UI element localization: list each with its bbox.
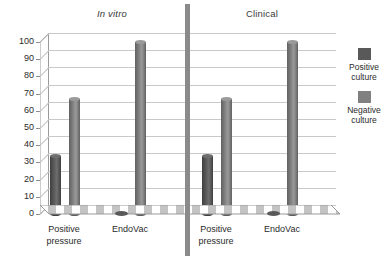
y-axis-tick-label: 0 bbox=[2, 209, 34, 218]
y-axis-tick-label: 50 bbox=[2, 123, 34, 132]
chart-floor bbox=[40, 205, 340, 223]
legend-swatch-positive-culture bbox=[358, 48, 371, 60]
y-axis-tick-label: 10 bbox=[2, 192, 34, 201]
bar-zero-marker bbox=[267, 211, 280, 216]
category-label: EndoVac bbox=[247, 224, 317, 236]
legend-label-negative-culture: Negative culture bbox=[338, 105, 390, 125]
floor-shape bbox=[40, 205, 340, 223]
bar-cap-ellipse bbox=[287, 40, 298, 44]
bar-column bbox=[221, 99, 232, 214]
y-axis-tick-label: 80 bbox=[2, 71, 34, 80]
legend-item-positive-culture: Positive culture bbox=[338, 48, 390, 82]
y-axis-tick-label: 30 bbox=[2, 157, 34, 166]
bar-column bbox=[69, 99, 80, 214]
bar-column bbox=[287, 42, 298, 214]
bar-body bbox=[221, 99, 232, 214]
y-axis-tick-label: 100 bbox=[2, 37, 34, 46]
bar-zero-marker bbox=[115, 211, 128, 216]
bar-cap-ellipse bbox=[135, 40, 146, 44]
bar-cap-ellipse bbox=[69, 97, 80, 101]
legend-swatch-negative-culture bbox=[358, 91, 371, 103]
legend-item-negative-culture: Negative culture bbox=[338, 91, 390, 125]
bar-cap-ellipse bbox=[202, 154, 213, 158]
panel-title-in-vitro: In vitro bbox=[72, 8, 152, 19]
y-axis-tick-label: 20 bbox=[2, 175, 34, 184]
category-label: EndoVac bbox=[95, 224, 165, 236]
chart-root: In vitro Clinical 1009080706050403020100 bbox=[0, 0, 390, 262]
bar-body bbox=[135, 42, 146, 214]
legend: Positive culture Negative culture bbox=[338, 48, 390, 134]
panel-divider bbox=[185, 4, 190, 256]
category-label: Positive pressure bbox=[181, 224, 251, 247]
bar-cap-ellipse bbox=[50, 154, 61, 158]
bar-body bbox=[287, 42, 298, 214]
y-axis-tick-label: 90 bbox=[2, 54, 34, 63]
gridline bbox=[48, 33, 336, 34]
y-axis-tick-label: 40 bbox=[2, 140, 34, 149]
panel-title-clinical: Clinical bbox=[222, 8, 302, 19]
category-label: Positive pressure bbox=[29, 224, 99, 247]
legend-label-positive-culture: Positive culture bbox=[338, 62, 390, 82]
bar-cap-ellipse bbox=[221, 97, 232, 101]
y-axis-tick-label: 60 bbox=[2, 106, 34, 115]
bar-column bbox=[135, 42, 146, 214]
bar-body bbox=[69, 99, 80, 214]
y-axis-tick-label: 70 bbox=[2, 89, 34, 98]
